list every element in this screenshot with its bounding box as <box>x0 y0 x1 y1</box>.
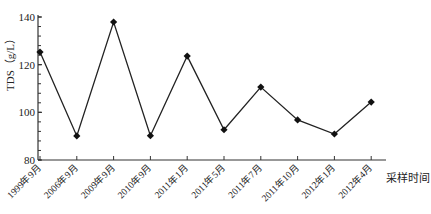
x-tick-label: 2012年4月 <box>336 162 375 201</box>
y-tick-label: 140 <box>19 11 36 23</box>
x-axis: 1999年9月2006年9月2009年9月2010年9月2011年1月2011年… <box>5 156 386 203</box>
y-tick-label: 100 <box>19 106 36 118</box>
x-tick-label: 2006年9月 <box>42 162 81 201</box>
x-tick-label: 2011年10月 <box>259 162 301 204</box>
diamond-marker-icon <box>147 132 154 139</box>
diamond-marker-icon <box>110 18 117 25</box>
x-tick-label: 2009年9月 <box>78 162 117 201</box>
plot-area <box>36 18 374 139</box>
x-tick-label: 1999年9月 <box>5 162 44 201</box>
x-tick-label: 2010年9月 <box>115 162 154 201</box>
y-axis-title: TDS（g/L） <box>4 33 16 91</box>
y-tick-label: 120 <box>19 59 36 71</box>
x-axis-title: 采样时间 <box>386 171 430 184</box>
y-axis: 80100120140 <box>19 11 43 166</box>
x-tick-label: 2011年1月 <box>152 162 190 200</box>
x-tick-label: 2011年5月 <box>189 162 227 200</box>
diamond-marker-icon <box>73 132 80 139</box>
x-tick-label: 2012年1月 <box>299 162 338 201</box>
x-tick-label: 2011年7月 <box>226 162 264 200</box>
diamond-marker-icon <box>184 52 191 59</box>
tds-line-chart: 80100120140 1999年9月2006年9月2009年9月2010年9月… <box>0 0 431 214</box>
series-line <box>40 22 371 136</box>
